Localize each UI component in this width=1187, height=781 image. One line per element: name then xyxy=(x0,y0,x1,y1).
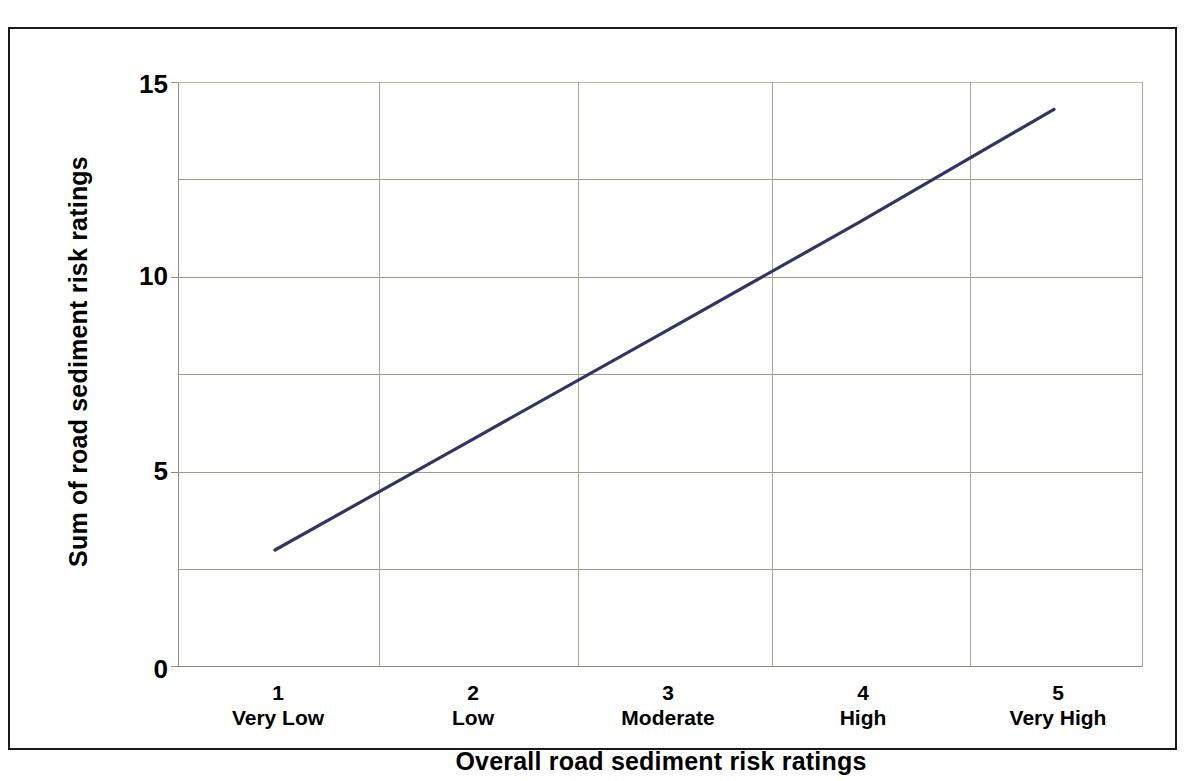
x-tick-number-4: 4 xyxy=(763,680,963,705)
x-tick-group-3: 3 Moderate xyxy=(568,680,768,731)
x-tick-group-4: 4 High xyxy=(763,680,963,731)
x-tick-number-2: 2 xyxy=(373,680,573,705)
x-tick-number-1: 1 xyxy=(178,680,378,705)
x-tick-name-5: Very High xyxy=(958,705,1158,731)
y-tick-label-5: 5 xyxy=(98,456,168,487)
x-tick-group-2: 2 Low xyxy=(373,680,573,731)
x-tick-name-3: Moderate xyxy=(568,705,768,731)
plot-area xyxy=(178,82,1143,667)
y-tick-mark-0 xyxy=(171,666,178,667)
y-axis-title: Sum of road sediment risk ratings xyxy=(64,102,93,622)
y-tick-mark-10 xyxy=(171,277,178,278)
series-line-sum-of-road-sediment-risk-ratings xyxy=(275,109,1054,550)
x-axis-title: Overall road sediment risk ratings xyxy=(178,747,1144,776)
x-tick-name-4: High xyxy=(763,705,963,731)
figure-frame: Sum of road sediment risk ratings Overal… xyxy=(8,27,1177,750)
y-tick-mark-15 xyxy=(171,82,178,83)
series-line-chart xyxy=(178,82,1143,667)
y-tick-label-15: 15 xyxy=(98,69,168,100)
y-tick-label-10: 10 xyxy=(98,261,168,292)
chart-figure: Sum of road sediment risk ratings Overal… xyxy=(0,0,1187,781)
y-tick-mark-5 xyxy=(171,472,178,473)
x-tick-group-5: 5 Very High xyxy=(958,680,1158,731)
x-tick-number-3: 3 xyxy=(568,680,768,705)
x-tick-number-5: 5 xyxy=(958,680,1158,705)
x-tick-group-1: 1 Very Low xyxy=(178,680,378,731)
x-tick-name-1: Very Low xyxy=(178,705,378,731)
x-tick-name-2: Low xyxy=(373,705,573,731)
y-tick-label-0: 0 xyxy=(98,654,168,685)
